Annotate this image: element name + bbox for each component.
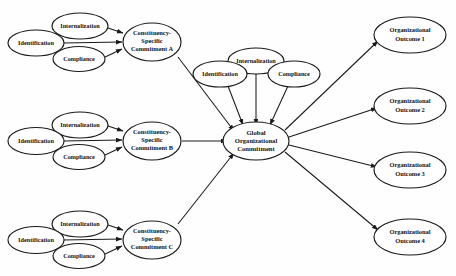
node-commitment-a[interactable] — [123, 23, 181, 61]
edge-c-identification-to-commitment — [63, 239, 122, 240]
node-organizational-outcome-3[interactable] — [374, 152, 446, 188]
node-a-compliance[interactable] — [53, 47, 105, 72]
node-group-outcomes: Organizational Outcome 1 Organizational … — [374, 17, 446, 255]
edge-global-to-outcome-3 — [289, 145, 377, 167]
node-commitment-b[interactable] — [123, 122, 181, 160]
node-a-internalization[interactable] — [52, 13, 108, 39]
node-organizational-outcome-2[interactable] — [374, 88, 446, 124]
node-organizational-outcome-1[interactable] — [374, 17, 446, 53]
edge-b-compliance-to-commitment — [103, 147, 122, 156]
node-b-compliance[interactable] — [53, 145, 105, 170]
node-global-compliance[interactable] — [268, 61, 320, 87]
edge-commitment-c-to-global — [178, 153, 234, 224]
node-commitment-c[interactable] — [123, 221, 181, 259]
node-a-identification[interactable] — [8, 30, 64, 56]
edge-c-compliance-to-commitment — [103, 246, 122, 255]
node-organizational-outcome-4[interactable] — [374, 219, 446, 255]
edge-b-identification-to-commitment — [63, 140, 122, 141]
diagram-svg: Internalization Identification Complianc… — [0, 0, 456, 276]
edge-global-compliance-to-global — [270, 86, 288, 125]
node-c-identification[interactable] — [8, 227, 64, 254]
node-c-compliance[interactable] — [53, 244, 105, 269]
edge-global-identification-to-global — [228, 86, 243, 125]
path-diagram-canvas: Internalization Identification Complianc… — [0, 0, 456, 276]
edge-a-compliance-to-commitment — [103, 49, 122, 58]
edge-a-identification-to-commitment — [63, 42, 122, 43]
edge-global-to-outcome-2 — [289, 108, 377, 137]
node-global-organizational-commitment[interactable] — [223, 122, 289, 160]
node-global-identification[interactable] — [193, 61, 247, 87]
node-global-organizational-commitment-group: Global Organizational Commitment — [223, 122, 289, 160]
node-b-identification[interactable] — [8, 128, 64, 155]
